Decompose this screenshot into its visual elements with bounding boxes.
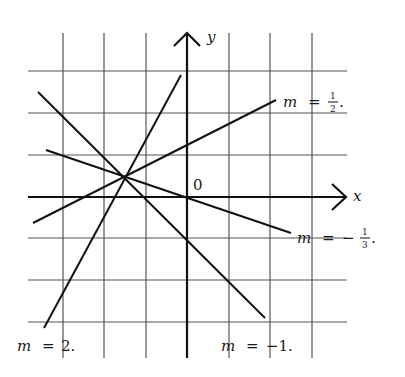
- svg-text:.: .: [371, 229, 376, 247]
- origin-label: 0: [193, 176, 203, 194]
- svg-text:.: .: [339, 93, 344, 111]
- svg-text:=: =: [322, 229, 335, 247]
- svg-text:m: m: [283, 93, 297, 111]
- svg-text:1: 1: [330, 91, 336, 101]
- svg-text:1: 1: [362, 227, 368, 237]
- svg-text:m: m: [17, 337, 31, 355]
- y-axis-label: y: [206, 28, 216, 46]
- svg-text:3: 3: [362, 240, 368, 250]
- svg-text:m: m: [221, 337, 235, 355]
- svg-text:m: m: [297, 229, 311, 247]
- axes: [28, 33, 346, 358]
- line-slope-neg-1: [38, 92, 265, 318]
- line-slope-half: [33, 100, 276, 223]
- label-slope-neg-1: m = −1.: [221, 337, 293, 355]
- svg-text:−: −: [342, 229, 355, 247]
- slope-diagram: y x 0 m = 1 2 . m = − 1 3 . m = 2. m = −…: [0, 0, 405, 377]
- svg-text:2: 2: [330, 104, 336, 114]
- svg-text:=: =: [308, 93, 321, 111]
- svg-text:2.: 2.: [61, 337, 75, 355]
- svg-text:=: =: [42, 337, 55, 355]
- label-slope-half: m = 1 2 .: [283, 91, 344, 114]
- svg-text:=: =: [246, 337, 259, 355]
- x-axis-label: x: [353, 187, 362, 205]
- svg-text:−1.: −1.: [266, 337, 293, 355]
- label-slope-2: m = 2.: [17, 337, 75, 355]
